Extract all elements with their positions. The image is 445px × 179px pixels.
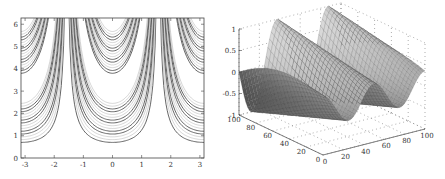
x-tick-label: -3 [22,161,29,169]
y-tick-label: 4 [14,65,19,73]
x-tick-label: 100 [420,132,433,140]
x-tick-label: 3 [198,161,202,169]
contour-plot: -3-2-101230123456 [0,0,220,179]
x-tick-label: 0 [110,161,114,169]
z-tick-label: 0.5 [225,47,236,55]
x-tick-label: 60 [382,142,391,150]
x-tick-label: 0 [323,158,327,166]
z-tick-label: -0.5 [223,90,237,98]
y-tick-label: 6 [14,21,19,29]
y-tick-label: 1 [14,132,18,140]
y-tick-label: 20 [297,148,306,156]
y-tick-label: 80 [246,124,255,132]
x-tick-label: -2 [51,161,58,169]
z-tick-label: 1 [232,26,236,34]
x-tick-label: 2 [169,161,173,169]
surface-plot: 020406080100020406080100-1-0.500.51 [220,0,445,179]
y-tick-label: 2 [14,110,18,118]
surface-plot-canvas: 020406080100020406080100-1-0.500.51 [220,0,445,179]
y-tick-label: 0 [14,155,18,163]
x-tick-label: 80 [402,137,411,145]
contour-lines [0,2,220,143]
x-tick-label: -1 [80,161,87,169]
z-tick-label: -1 [229,112,236,120]
y-tick-label: 3 [14,88,18,96]
y-tick-label: 5 [14,43,18,51]
x-tick-label: 20 [341,153,350,161]
contour-plot-canvas: -3-2-101230123456 [0,0,220,179]
y-tick-label: 60 [263,132,272,140]
y-tick-label: 0 [316,156,320,164]
x-tick-label: 1 [139,161,143,169]
surface-mesh [239,6,425,120]
z-tick-label: 0 [232,69,236,77]
x-tick-label: 40 [361,148,370,156]
y-tick-label: 40 [280,140,289,148]
